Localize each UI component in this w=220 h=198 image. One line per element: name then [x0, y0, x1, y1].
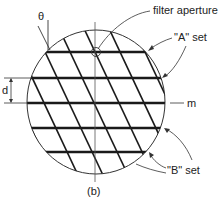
d-label: d — [2, 84, 8, 96]
filter-aperture-leader — [98, 11, 150, 49]
m-label: m — [187, 97, 196, 109]
a-set-arrow-2-icon — [162, 73, 168, 78]
b-set-leader-3 — [136, 164, 166, 173]
figure-caption: (b) — [87, 185, 100, 197]
a-set-leader-1 — [150, 38, 172, 49]
b-set-leader-1 — [166, 129, 192, 160]
a-set-label: "A" set — [174, 31, 207, 43]
a-set-leader-2 — [164, 46, 186, 77]
d-arrow-down-icon — [9, 99, 13, 103]
grating-diagram: θ d m filter aperture "A" set "B" set (b… — [0, 0, 220, 198]
d-arrow-up-icon — [9, 78, 13, 82]
theta-label: θ — [38, 10, 44, 22]
a-set-arrow-1-icon — [148, 45, 154, 51]
b-set-label: "B" set — [167, 164, 200, 176]
filter-aperture-label: filter aperture — [153, 4, 218, 16]
